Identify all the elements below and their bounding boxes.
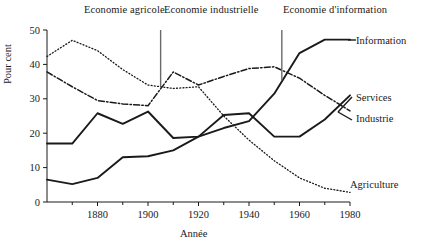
chart-plot-area: 01020304050188019001920194019601980 [0, 0, 428, 246]
svg-text:1920: 1920 [188, 209, 209, 220]
svg-text:50: 50 [30, 25, 41, 36]
svg-text:1980: 1980 [340, 209, 361, 220]
svg-text:0: 0 [35, 197, 40, 208]
series-line-industrie [47, 67, 350, 111]
annotation-pointer-layer [161, 30, 282, 87]
axis-layer: 01020304050188019001920194019601980 [30, 25, 361, 221]
series-layer [47, 40, 350, 193]
series-line-information [47, 40, 350, 184]
svg-text:1960: 1960 [289, 209, 310, 220]
svg-text:1940: 1940 [239, 209, 260, 220]
svg-text:1880: 1880 [87, 209, 108, 220]
series-line-agriculture [47, 40, 350, 192]
svg-text:10: 10 [30, 162, 41, 173]
label-leader-layer [338, 40, 356, 120]
svg-text:30: 30 [30, 93, 41, 104]
chart-container: Economie agricole Economie industrielle … [0, 0, 428, 246]
svg-text:40: 40 [30, 59, 41, 70]
svg-text:20: 20 [30, 128, 41, 139]
svg-text:1900: 1900 [138, 209, 159, 220]
